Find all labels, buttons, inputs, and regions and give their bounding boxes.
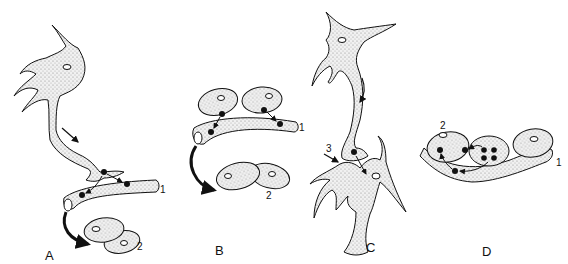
panel-label-b: B — [215, 243, 224, 258]
label-b-2: 2 — [266, 190, 272, 201]
oval-cell — [213, 158, 262, 195]
particle-icon — [351, 149, 357, 155]
nucleus-icon — [338, 38, 346, 43]
particle-icon — [219, 111, 225, 117]
neuron-cell-a — [14, 25, 124, 181]
arrow-icon — [62, 128, 78, 142]
curved-arrow-icon — [64, 212, 88, 244]
particle-icon — [208, 129, 214, 135]
curved-arrow-icon — [191, 146, 214, 190]
tube-opening — [194, 132, 202, 144]
nucleus-icon — [92, 227, 100, 232]
tube-opening — [64, 199, 72, 211]
panel-label-a: A — [45, 248, 54, 263]
panel-b: 1 2 B — [191, 84, 305, 258]
particle-icon — [437, 147, 443, 153]
nucleus-icon — [218, 96, 225, 101]
particle-icon — [481, 147, 487, 153]
panel-c: 3 C — [310, 12, 406, 255]
particle-icon — [277, 121, 283, 127]
nucleus-icon — [269, 172, 276, 177]
particle-icon — [491, 155, 497, 161]
nucleus-icon — [372, 173, 380, 179]
nucleus-icon — [530, 137, 538, 142]
oval-cell — [195, 84, 240, 119]
stellate-cell-upper — [312, 12, 396, 161]
panel-label-c: C — [366, 240, 375, 255]
particle-icon — [124, 181, 130, 187]
particle-icon — [491, 147, 497, 153]
oval-cell — [469, 136, 509, 166]
panel-label-d: D — [482, 244, 491, 259]
particle-icon — [452, 168, 458, 174]
particle-icon — [261, 107, 267, 113]
nucleus-icon — [63, 65, 71, 70]
nucleus-icon — [266, 94, 273, 99]
particle-icon — [481, 155, 487, 161]
label-d-2: 2 — [440, 120, 446, 131]
particle-icon — [101, 169, 107, 175]
label-c-3: 3 — [326, 143, 332, 154]
label-a-1: 1 — [160, 184, 166, 195]
panel-d: 1 2 D — [420, 120, 562, 259]
nucleus-icon — [121, 241, 128, 246]
label-b-1: 1 — [299, 122, 305, 133]
label-d-1: 1 — [556, 157, 562, 168]
panel-a: 1 2 A — [14, 25, 166, 263]
particle-icon — [462, 147, 468, 153]
nucleus-icon — [439, 133, 447, 138]
figure-canvas: 1 2 A 1 2 B 3 C — [0, 0, 568, 264]
arrow-icon — [324, 154, 338, 162]
particle-icon — [79, 192, 85, 198]
tube-a — [64, 180, 159, 209]
label-a-2: 2 — [137, 241, 143, 252]
nucleus-icon — [225, 174, 232, 179]
